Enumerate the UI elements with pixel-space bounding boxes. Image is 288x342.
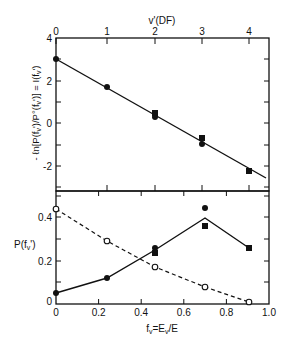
bottom-y-axis-title: P(fv') bbox=[14, 239, 36, 251]
tick-label: 1.0 bbox=[262, 307, 276, 318]
data-point bbox=[202, 223, 208, 229]
data-point bbox=[246, 168, 252, 174]
bottom-y-tick-labels: 0.4 0.2 0 bbox=[38, 212, 52, 307]
data-point bbox=[152, 264, 158, 270]
tick-label: 0.2 bbox=[38, 256, 52, 267]
tick-label: 4 bbox=[46, 33, 52, 44]
data-point bbox=[104, 238, 110, 244]
tick-label: 4 bbox=[246, 26, 252, 37]
tick-label: 0.4 bbox=[38, 212, 52, 223]
tick-label: 0.2 bbox=[92, 307, 106, 318]
tick-label: 3 bbox=[199, 26, 205, 37]
tick-label: 0 bbox=[53, 307, 59, 318]
top-panel-frame bbox=[56, 38, 269, 191]
top-x-axis-title: v'(DF) bbox=[149, 15, 176, 26]
tick-label: 2 bbox=[46, 76, 52, 87]
data-point bbox=[199, 135, 205, 141]
data-point bbox=[152, 250, 158, 256]
tick-label: 0 bbox=[53, 26, 59, 37]
tick-label: 0.6 bbox=[177, 307, 191, 318]
bottom-x-tick-labels: 0 0.2 0.4 0.6 0.8 1.0 bbox=[53, 307, 276, 318]
data-point bbox=[202, 284, 208, 290]
top-fit-line bbox=[56, 59, 266, 178]
data-point bbox=[199, 141, 205, 147]
data-point bbox=[246, 299, 252, 305]
chart: 0 1 2 3 4 v'(DF) 4 2 0 -2 - ℓn[P(fv')/P°… bbox=[0, 0, 288, 342]
tick-label: 0.4 bbox=[134, 307, 148, 318]
top-x-tick-labels: 0 1 2 3 4 bbox=[53, 26, 252, 37]
tick-label: 0 bbox=[46, 118, 52, 129]
bottom-filled-markers bbox=[53, 205, 252, 296]
data-point bbox=[53, 206, 59, 212]
top-y-tick-labels: 4 2 0 -2 bbox=[43, 33, 52, 172]
top-y-axis-title: - ℓn[P(fv')/P°(fv')] = I(fv') bbox=[30, 66, 42, 161]
data-point bbox=[246, 245, 252, 251]
top-y-ticks bbox=[56, 59, 269, 187]
data-point bbox=[152, 110, 158, 116]
tick-label: 0 bbox=[46, 296, 52, 307]
tick-label: -2 bbox=[43, 161, 52, 172]
data-point bbox=[104, 84, 110, 90]
bottom-x-ticks bbox=[99, 299, 227, 304]
data-point bbox=[53, 290, 59, 296]
data-point bbox=[202, 205, 208, 211]
data-point bbox=[53, 56, 59, 62]
bottom-y-ticks bbox=[56, 196, 269, 282]
data-point bbox=[104, 275, 110, 281]
tick-label: 0.8 bbox=[219, 307, 233, 318]
bottom-panel-frame bbox=[56, 191, 269, 304]
bottom-x-axis-title: fv=Ev/E bbox=[146, 323, 178, 335]
tick-label: 1 bbox=[104, 26, 110, 37]
tick-label: 2 bbox=[152, 26, 158, 37]
